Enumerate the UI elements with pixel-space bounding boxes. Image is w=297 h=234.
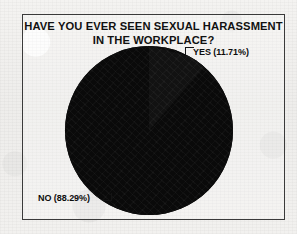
chart-title-line-2: IN THE WORKPLACE? — [23, 34, 284, 48]
pie-label-no: NO (88.29%) — [38, 193, 90, 203]
pie-graphic — [65, 46, 233, 215]
chart-title: HAVE YOU EVER SEEN SEXUAL HARASSMENT IN … — [23, 20, 284, 47]
pie-label-yes: YES (11.71%) — [193, 47, 249, 57]
pie-chart-figure: HAVE YOU EVER SEEN SEXUAL HARASSMENT IN … — [0, 0, 297, 234]
chart-title-line-1: HAVE YOU EVER SEEN SEXUAL HARASSMENT — [23, 20, 284, 34]
